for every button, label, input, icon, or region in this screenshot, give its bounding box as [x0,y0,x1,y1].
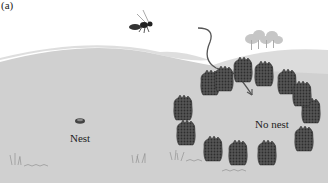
pine-cone-icon [234,57,253,82]
pine-cone-icon [293,81,312,106]
panel-label: (a) [1,0,13,11]
pine-cone-icon [204,136,223,161]
pine-cone-icon [215,66,234,91]
pine-cone-icon [255,61,274,86]
pine-cone-icon [174,95,193,120]
pine-cone-icon [229,140,248,165]
nest-label: Nest [70,132,90,144]
pine-cone-icon [177,120,196,145]
landscape-illustration [0,0,328,183]
pine-cone-icon [258,140,277,165]
pine-cone-icon [295,126,314,151]
diagram-scene: (a) Nest No nest [0,0,328,183]
no-nest-label: No nest [255,118,289,130]
